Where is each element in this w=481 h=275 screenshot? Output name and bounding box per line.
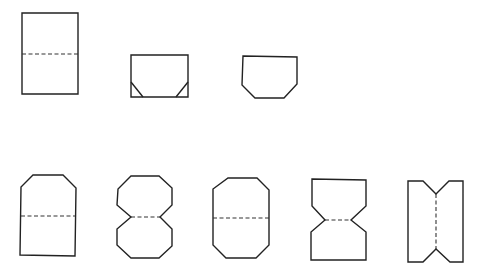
diagram-canvas <box>0 0 481 275</box>
shapes-svg <box>0 0 481 275</box>
background <box>0 0 481 275</box>
